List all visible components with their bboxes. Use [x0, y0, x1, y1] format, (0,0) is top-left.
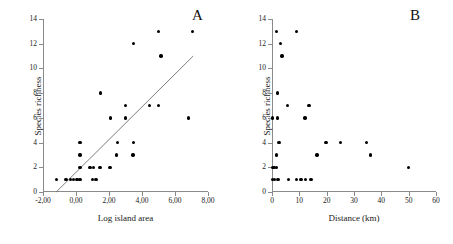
data-point: [275, 153, 278, 156]
panel-a-x-axis: [43, 191, 208, 192]
panel-b-x-tick-label: 10: [296, 197, 304, 205]
panel-b-x-tick-label: 30: [350, 197, 358, 205]
data-point: [115, 153, 118, 156]
panel-a-x-tick-label: 6,00: [168, 197, 181, 205]
data-point: [124, 116, 127, 119]
data-point: [109, 116, 112, 119]
figure-container: A Log island area Species richness 02468…: [0, 0, 453, 244]
panel-a-y-tick-label: 4: [33, 139, 37, 147]
data-point: [55, 178, 58, 181]
data-point: [369, 153, 372, 156]
panel-b-x-tick-label: 20: [323, 197, 331, 205]
data-point: [132, 42, 135, 45]
panel-a-y-tick: [39, 118, 43, 119]
panel-b-x-axis-title: Distance (km): [328, 214, 379, 223]
panel-a-y-tick-label: 8: [33, 89, 37, 97]
data-point: [157, 30, 160, 33]
panel-a-y-axis-title: Species richness: [34, 76, 43, 135]
data-point: [303, 116, 306, 119]
panel-b: B Distance (km) Species richness 0246810…: [226, 0, 453, 244]
panel-a-x-tick-label: 4,00: [135, 197, 148, 205]
data-point: [187, 116, 190, 119]
data-point: [276, 91, 279, 94]
data-point: [299, 178, 302, 181]
panel-b-y-tick: [268, 44, 272, 45]
data-point: [286, 104, 289, 107]
data-point: [159, 54, 162, 57]
data-point: [407, 166, 410, 169]
data-point: [98, 166, 101, 169]
data-point: [108, 166, 111, 169]
panel-a-y-tick-label: 2: [33, 164, 37, 172]
data-point: [295, 30, 298, 33]
panel-a-y-tick: [39, 19, 43, 20]
panel-a-y-axis: [43, 19, 44, 192]
data-point: [280, 54, 283, 57]
data-point: [277, 141, 280, 144]
panel-a-y-tick-label: 6: [33, 114, 37, 122]
data-point: [304, 178, 307, 181]
data-point: [78, 153, 81, 156]
data-point: [275, 166, 278, 169]
data-point: [324, 141, 327, 144]
data-point: [157, 104, 160, 107]
data-point: [131, 153, 134, 156]
data-point: [309, 178, 312, 181]
panel-a-plot-area: Log island area Species richness 0246810…: [43, 19, 208, 192]
panel-b-x-tick-label: 40: [378, 197, 386, 205]
panel-a: A Log island area Species richness 02468…: [0, 0, 226, 244]
panel-b-y-tick: [268, 93, 272, 94]
panel-a-y-tick-label: 10: [30, 65, 38, 73]
panel-b-y-tick: [268, 68, 272, 69]
panel-b-y-tick: [268, 19, 272, 20]
data-point: [94, 178, 97, 181]
panel-b-y-tick-label: 8: [262, 89, 266, 97]
data-point: [315, 153, 318, 156]
data-point: [99, 91, 102, 94]
panel-b-x-tick-label: 50: [405, 197, 413, 205]
data-point: [276, 116, 279, 119]
panel-a-y-tick-label: 14: [30, 15, 38, 23]
panel-a-x-tick-label: -2,00: [35, 197, 51, 205]
data-point: [365, 141, 368, 144]
panel-a-x-tick-label: 8,00: [201, 197, 214, 205]
panel-b-y-tick-label: 2: [262, 164, 266, 172]
data-point: [279, 42, 282, 45]
data-point: [339, 141, 342, 144]
panel-b-x-tick-label: 60: [432, 197, 440, 205]
panel-b-y-tick-label: 12: [259, 40, 267, 48]
panel-b-y-tick-label: 0: [262, 188, 266, 196]
data-point: [275, 30, 278, 33]
data-point: [287, 178, 290, 181]
panel-b-y-axis-title: Species richness: [263, 76, 272, 135]
panel-b-x-tick-label: 0: [270, 197, 274, 205]
data-point: [116, 141, 119, 144]
data-point: [307, 104, 310, 107]
panel-a-y-tick: [39, 44, 43, 45]
data-point: [64, 178, 67, 181]
data-point: [124, 104, 127, 107]
panel-a-y-tick-label: 12: [30, 40, 38, 48]
data-point: [78, 141, 81, 144]
data-point: [78, 166, 81, 169]
panel-b-y-tick-label: 14: [259, 15, 267, 23]
data-point: [191, 30, 194, 33]
panel-a-x-tick-label: 2,00: [102, 197, 115, 205]
panel-b-y-tick-label: 10: [259, 65, 267, 73]
panel-a-y-tick-label: 0: [33, 188, 37, 196]
panel-a-x-tick-label: 0,00: [69, 197, 82, 205]
data-point: [271, 116, 274, 119]
panel-a-y-tick: [39, 167, 43, 168]
panel-b-y-tick-label: 4: [262, 139, 266, 147]
data-point: [132, 141, 135, 144]
panel-b-plot-area: Distance (km) Species richness 024681012…: [272, 19, 436, 192]
panel-a-y-tick: [39, 68, 43, 69]
panel-a-y-tick: [39, 143, 43, 144]
data-point: [78, 178, 81, 181]
data-point: [276, 178, 279, 181]
panel-b-y-tick: [268, 143, 272, 144]
data-point: [295, 178, 298, 181]
panel-a-x-axis-title: Log island area: [98, 214, 153, 223]
data-point: [148, 104, 151, 107]
panel-a-y-tick: [39, 93, 43, 94]
